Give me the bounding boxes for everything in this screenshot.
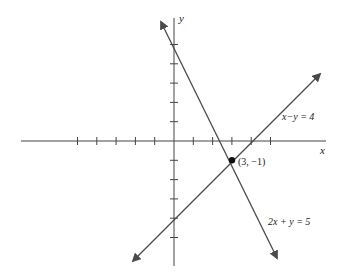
line-x-minus-y-eq-4 xyxy=(133,74,320,261)
intersection-point xyxy=(229,157,235,163)
x-axis-label: x xyxy=(319,144,325,156)
coordinate-plane: y x x−y = 4 2x + y = 5 (3, −1) xyxy=(0,0,344,280)
line2-label: 2x + y = 5 xyxy=(268,216,310,227)
line-2x-plus-y-eq-5 xyxy=(161,22,277,258)
line1-label: x−y = 4 xyxy=(281,111,314,122)
point-label: (3, −1) xyxy=(238,156,265,168)
y-axis-label: y xyxy=(178,12,184,24)
